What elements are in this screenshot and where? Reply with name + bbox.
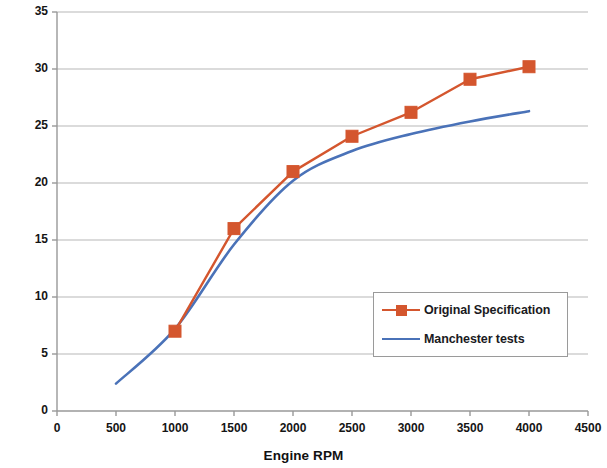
legend-label-original-specification: Original Specification xyxy=(424,303,550,317)
legend-item-original-specification: Original Specification xyxy=(382,301,550,319)
legend-marker-square xyxy=(396,305,407,316)
legend-line-manchester-tests xyxy=(382,338,420,340)
plot-area xyxy=(0,0,607,468)
chart-legend: Original Specification Manchester tests xyxy=(373,292,568,357)
legend-swatch-manchester-tests xyxy=(382,332,420,346)
legend-swatch-original-specification xyxy=(382,303,420,317)
legend-item-manchester-tests: Manchester tests xyxy=(382,330,525,348)
legend-label-manchester-tests: Manchester tests xyxy=(424,332,525,346)
chart-figure: Degrees advance Engine RPM 0510152025303… xyxy=(0,0,607,468)
